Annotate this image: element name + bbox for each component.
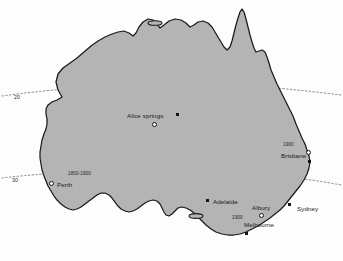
year-label-brisbane: 1900 xyxy=(283,143,294,148)
latitude-label-20: 20 xyxy=(14,95,20,100)
australia-map: 20 30 Alice springs 1900 Brisbane 1800-1… xyxy=(0,0,343,261)
year-label-melbourne: 1900 xyxy=(232,216,243,221)
australia-mainland xyxy=(40,9,310,235)
latitude-label-30: 30 xyxy=(12,178,18,183)
city-marker-melbourne xyxy=(245,232,248,235)
map-canvas xyxy=(0,0,343,261)
city-marker-alice-springs xyxy=(176,113,179,116)
city-label-sydney: Sydney xyxy=(297,206,318,212)
city-label-alice-springs: Alice springs xyxy=(127,113,163,119)
city-label-melbourne: Melbourne xyxy=(244,222,274,228)
kangaroo-island xyxy=(189,214,203,219)
city-marker-brisbane xyxy=(308,160,311,163)
city-label-adelaide: Adelaide xyxy=(213,199,238,205)
year-label-perth: 1800-1900 xyxy=(68,172,91,177)
city-label-brisbane: Brisbane xyxy=(281,153,306,159)
city-marker-adelaide xyxy=(206,199,209,202)
melville-island xyxy=(148,21,162,26)
city-label-albury: Albury xyxy=(252,205,270,211)
city-marker-sydney xyxy=(288,203,291,206)
city-label-perth: Perth xyxy=(57,182,72,188)
